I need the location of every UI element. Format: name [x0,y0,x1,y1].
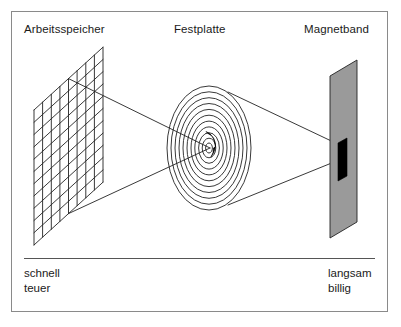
footer-left-speed: schnell [24,266,60,281]
footer-left-cost: teuer [24,281,60,296]
footer-left: schnell teuer [24,266,60,296]
label-arbeitsspeicher: Arbeitsspeicher [24,23,105,35]
footer-right: langsam billig [328,266,371,296]
label-festplatte: Festplatte [174,23,226,35]
disk-sector-marker [206,132,216,147]
footer-right-cost: billig [328,281,371,296]
connector-ram-to-disk [69,79,211,214]
label-magnetband: Magnetband [304,23,369,35]
memory-grid-icon [34,47,103,245]
connector-disk-to-tape [228,92,344,205]
tape-data-block [338,138,347,181]
footer-right-speed: langsam [328,266,371,281]
storage-hierarchy-figure: Arbeitsspeicher Festplatte Magnetband sc… [0,0,401,327]
magnetic-tape-icon [330,60,357,238]
